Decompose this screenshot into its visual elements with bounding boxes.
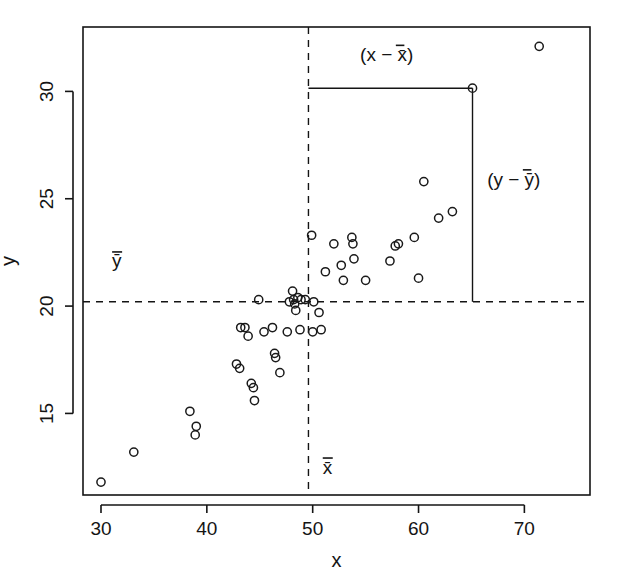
y-tick-label: 30	[36, 81, 57, 102]
plot-canvas: 3040506070x15202530y(x − x̄)(y − ȳ)x̄ȳ	[0, 0, 617, 583]
data-point	[420, 177, 428, 185]
data-point	[191, 431, 199, 439]
scatter-plot-figure: 3040506070x15202530y(x − x̄)(y − ȳ)x̄ȳ	[0, 0, 617, 583]
data-point	[260, 328, 268, 336]
data-point	[350, 255, 358, 263]
data-point	[186, 407, 194, 415]
data-point	[435, 214, 443, 222]
data-point	[339, 276, 347, 284]
data-point	[268, 323, 276, 331]
data-point	[410, 233, 418, 241]
y-axis-title: y	[0, 256, 19, 266]
data-point	[192, 422, 200, 430]
data-point	[309, 328, 317, 336]
y-deviation-label: (y − ȳ)	[487, 169, 540, 190]
data-point	[414, 274, 422, 282]
x-tick-label: 30	[90, 518, 111, 539]
y-tick-label: 25	[36, 188, 57, 209]
x-deviation-label: (x − x̄)	[360, 44, 413, 65]
data-point	[255, 296, 263, 304]
y-tick-label: 20	[36, 296, 57, 317]
data-point	[250, 396, 258, 404]
data-point	[535, 42, 543, 50]
data-point	[337, 261, 345, 269]
x-axis-title: x	[332, 549, 342, 571]
data-point	[317, 326, 325, 334]
x-tick-label: 50	[302, 518, 323, 539]
data-point	[362, 276, 370, 284]
y-tick-label: 15	[36, 403, 57, 424]
plot-frame	[83, 27, 590, 495]
data-point	[130, 448, 138, 456]
data-point	[244, 332, 252, 340]
data-point	[315, 308, 323, 316]
data-point	[97, 478, 105, 486]
y-mean-label: ȳ	[112, 250, 122, 271]
data-point	[283, 328, 291, 336]
data-point	[296, 326, 304, 334]
data-point	[321, 268, 329, 276]
x-mean-label: x̄	[323, 457, 333, 478]
x-tick-label: 60	[408, 518, 429, 539]
data-point	[386, 257, 394, 265]
data-point	[330, 240, 338, 248]
x-tick-label: 70	[514, 518, 535, 539]
data-point	[276, 369, 284, 377]
x-tick-label: 40	[196, 518, 217, 539]
data-point	[448, 208, 456, 216]
